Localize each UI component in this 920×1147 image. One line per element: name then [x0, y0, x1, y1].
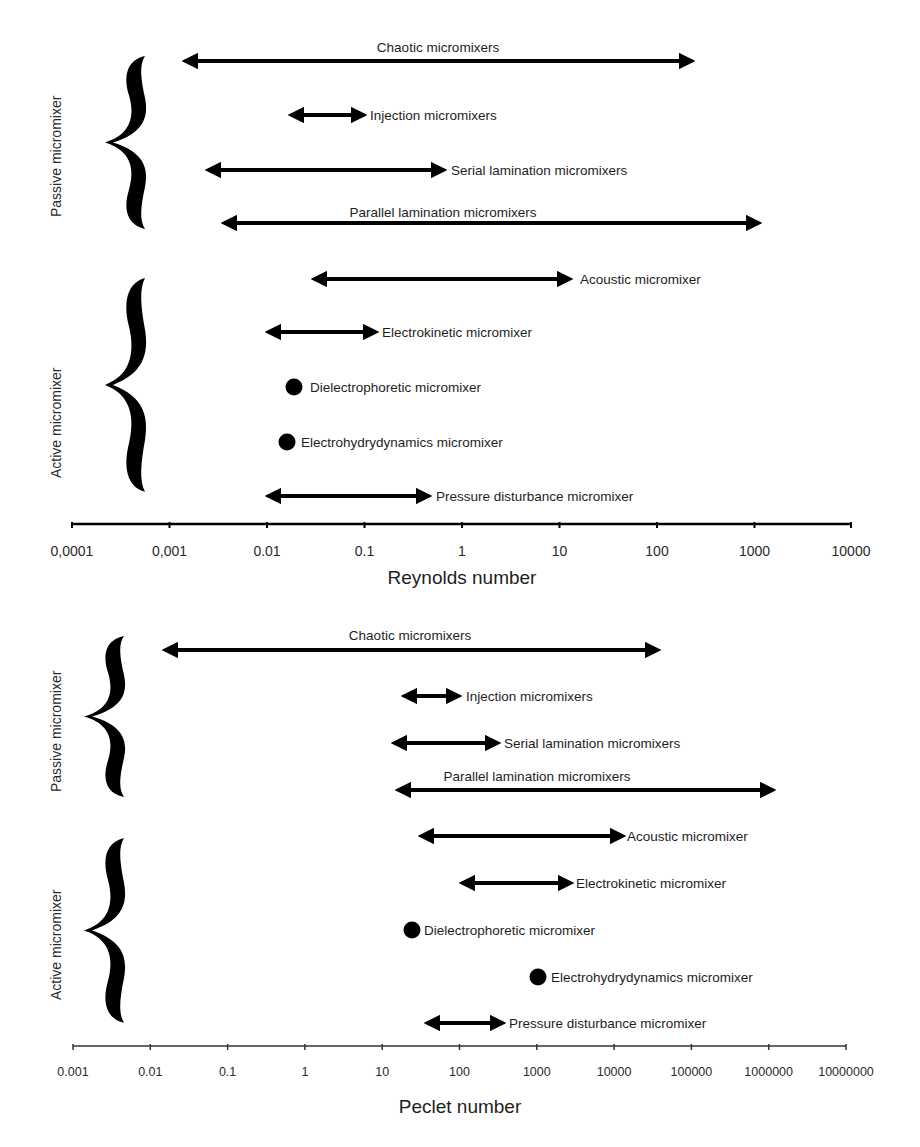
- peclet-label-pressure: Pressure disturbance micromixer: [509, 1016, 707, 1031]
- peclet-label-ehd: Electrohydrydynamics micromixer: [551, 970, 753, 985]
- peclet-tick-label: 100000: [671, 1065, 713, 1079]
- peclet-point-ehd: [530, 969, 547, 986]
- peclet-tick-label: 10000: [597, 1065, 632, 1079]
- peclet-tick-label: 0.01: [138, 1065, 162, 1079]
- reynolds-active-brace-icon: [105, 278, 146, 492]
- peclet-active-brace-icon: [84, 838, 125, 1023]
- peclet-chart: Passive micromixer Active micromixer Cha…: [48, 628, 874, 1117]
- peclet-group-passive-label: Passive micromixer: [48, 670, 64, 792]
- reynolds-label-ehd: Electrohydrydynamics micromixer: [301, 435, 503, 450]
- reynolds-tick-label: 0.01: [253, 543, 280, 559]
- reynolds-tick-label: 100: [645, 543, 669, 559]
- peclet-label-chaotic: Chaotic micromixers: [349, 628, 472, 643]
- peclet-label-parallel: Parallel lamination micromixers: [444, 769, 631, 784]
- reynolds-label-pressure: Pressure disturbance micromixer: [436, 489, 634, 504]
- peclet-group-active-label: Active micromixer: [48, 889, 64, 1000]
- reynolds-label-injection: Injection micromixers: [370, 108, 497, 123]
- reynolds-label-chaotic: Chaotic micromixers: [377, 40, 500, 55]
- reynolds-group-passive-label: Passive micromixer: [48, 95, 64, 217]
- peclet-tick-label: 0.1: [219, 1065, 236, 1079]
- reynolds-group-active-label: Active micromixer: [48, 367, 64, 478]
- figure: Passive micromixer Active micromixer Cha…: [0, 0, 920, 1147]
- reynolds-label-parallel: Parallel lamination micromixers: [350, 205, 537, 220]
- peclet-tick-label: 1000000: [744, 1065, 793, 1079]
- peclet-label-injection: Injection micromixers: [466, 689, 593, 704]
- reynolds-label-electrokinetic: Electrokinetic micromixer: [382, 325, 533, 340]
- reynolds-point-dielectrophoretic: [286, 379, 303, 396]
- reynolds-axis-title: Reynolds number: [388, 567, 538, 588]
- reynolds-tick-label: 10: [552, 543, 568, 559]
- peclet-tick-label: 0.001: [57, 1065, 88, 1079]
- peclet-label-acoustic: Acoustic micromixer: [627, 829, 748, 844]
- reynolds-tick-label: 10000: [832, 543, 871, 559]
- peclet-axis-title: Peclet number: [399, 1096, 522, 1117]
- reynolds-point-ehd: [279, 434, 296, 451]
- peclet-label-electrokinetic: Electrokinetic micromixer: [576, 876, 727, 891]
- reynolds-label-dielectrophoretic: Dielectrophoretic micromixer: [310, 380, 482, 395]
- reynolds-tick-label: 1: [458, 543, 466, 559]
- peclet-tick-label: 10: [375, 1065, 389, 1079]
- reynolds-chart: Passive micromixer Active micromixer Cha…: [48, 40, 871, 588]
- reynolds-passive-brace-icon: [105, 56, 146, 229]
- peclet-tick-label: 1000: [523, 1065, 551, 1079]
- peclet-tick-label: 100: [449, 1065, 470, 1079]
- peclet-tick-label: 1: [301, 1065, 308, 1079]
- peclet-label-dielectrophoretic: Dielectrophoretic micromixer: [424, 923, 596, 938]
- peclet-tick-label: 10000000: [818, 1065, 874, 1079]
- peclet-ticks: [73, 1044, 846, 1050]
- reynolds-tick-label: 0.1: [355, 543, 375, 559]
- reynolds-tick-label: 0,0001: [51, 543, 94, 559]
- reynolds-tick-label: 0,001: [152, 543, 187, 559]
- reynolds-label-serial: Serial lamination micromixers: [451, 163, 628, 178]
- reynolds-tick-label: 1000: [739, 543, 770, 559]
- peclet-passive-brace-icon: [84, 636, 125, 797]
- peclet-point-dielectrophoretic: [404, 922, 421, 939]
- reynolds-label-acoustic: Acoustic micromixer: [580, 272, 701, 287]
- peclet-label-serial: Serial lamination micromixers: [504, 736, 681, 751]
